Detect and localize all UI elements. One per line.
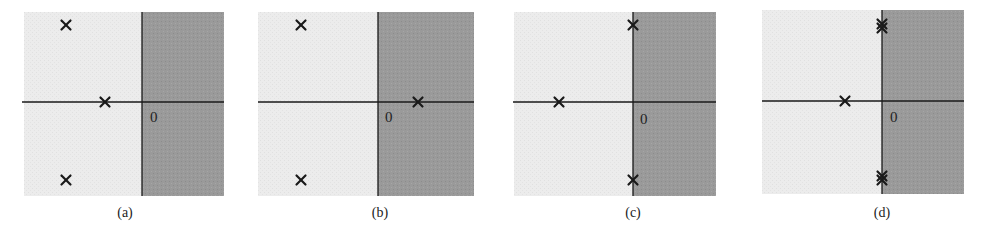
panel-caption: (a): [117, 205, 133, 221]
panel-caption: (d): [874, 205, 891, 221]
stable-region: [258, 12, 378, 196]
stable-region: [762, 10, 882, 194]
stable-region: [514, 12, 633, 196]
unstable-region: [142, 12, 224, 196]
panel-caption: (b): [372, 205, 389, 221]
origin-label: 0: [890, 109, 898, 125]
panel-a: 0(a): [22, 12, 224, 221]
unstable-region: [633, 12, 716, 196]
panel-c: 0(c): [513, 12, 716, 221]
stable-region: [24, 12, 142, 196]
pole-location-figure: 0(a)0(b)0(c)0(d): [0, 0, 989, 240]
origin-label: 0: [640, 111, 648, 127]
pole-diagrams-canvas: 0(a)0(b)0(c)0(d): [0, 0, 989, 240]
unstable-region: [378, 12, 474, 196]
origin-label: 0: [385, 109, 393, 125]
origin-label: 0: [150, 109, 158, 125]
panel-d: 0(d): [762, 10, 964, 221]
panel-b: 0(b): [258, 12, 474, 221]
unstable-region: [882, 10, 964, 194]
panel-caption: (c): [625, 205, 641, 221]
